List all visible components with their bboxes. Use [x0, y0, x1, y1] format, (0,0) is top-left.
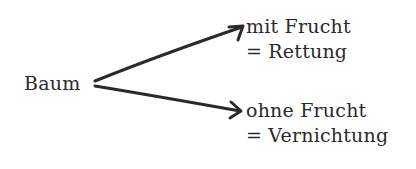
branch-1-condition: mit Frucht: [246, 15, 351, 37]
tree-fruit-diagram: Baum mit Frucht = Rettung ohne Frucht = …: [0, 0, 416, 169]
arrow-to-without-fruit-icon: [95, 86, 241, 118]
root-label-baum: Baum: [24, 72, 80, 94]
branch-2-outcome: = Vernichtung: [246, 124, 388, 146]
branch-2-condition: ohne Frucht: [246, 99, 366, 121]
branch-1-outcome: = Rettung: [246, 40, 347, 62]
arrow-to-with-fruit-icon: [95, 26, 243, 81]
